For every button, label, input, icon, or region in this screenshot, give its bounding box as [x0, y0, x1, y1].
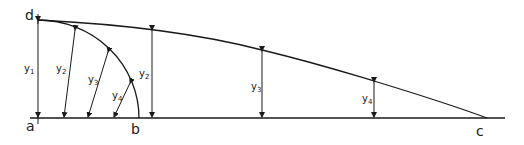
point-label-a: a [26, 118, 35, 134]
point-label-c: c [476, 123, 484, 139]
label-y3-radial: y3 [88, 74, 98, 87]
label-y4-radial: y4 [112, 90, 123, 103]
label-y2-vertical: y2 [139, 68, 149, 81]
diagram-canvas: d a b c y1 y2 y3 y4 y2 y3 y4 [0, 0, 524, 145]
point-label-b: b [131, 121, 140, 137]
vertical-ordinates [38, 21, 374, 117]
radial-ordinates [64, 30, 130, 117]
label-y1: y1 [24, 63, 34, 76]
label-y2-radial: y2 [56, 63, 66, 76]
arc-d-to-b [38, 20, 139, 118]
point-label-d: d [25, 7, 34, 23]
label-y3-vertical: y3 [251, 81, 261, 94]
label-y4-vertical: y4 [362, 93, 373, 106]
